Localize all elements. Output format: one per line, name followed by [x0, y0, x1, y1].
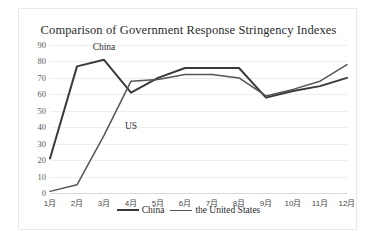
chart-card: Comparison of Government Response String… [18, 8, 357, 230]
y-tick-80: 80 [6, 56, 46, 66]
y-tick-50: 50 [6, 106, 46, 116]
gridline-0 [50, 193, 347, 194]
legend-swatch-china [117, 209, 139, 211]
y-tick-30: 30 [6, 139, 46, 149]
y-tick-40: 40 [6, 122, 46, 132]
series-line-the-united-states [50, 65, 347, 192]
y-tick-60: 60 [6, 89, 46, 99]
y-tick-70: 70 [6, 73, 46, 83]
chart-title: Comparison of Government Response String… [19, 23, 358, 38]
legend-swatch-united-states [170, 210, 192, 211]
plot-area: 0102030405060708090 1月2月3月4月5月6月7月8月9月10… [50, 45, 347, 193]
y-tick-90: 90 [6, 40, 46, 50]
legend-label-united-states: the United States [195, 205, 260, 215]
chart-legend: China the United States [19, 205, 358, 215]
y-tick-10: 10 [6, 172, 46, 182]
annotation-us: US [125, 121, 137, 131]
legend-item-united-states[interactable]: the United States [170, 205, 260, 215]
annotation-china: China [93, 42, 116, 52]
legend-item-china[interactable]: China [117, 205, 165, 215]
y-tick-20: 20 [6, 155, 46, 165]
legend-label-china: China [142, 205, 165, 215]
series-lines [50, 45, 347, 193]
